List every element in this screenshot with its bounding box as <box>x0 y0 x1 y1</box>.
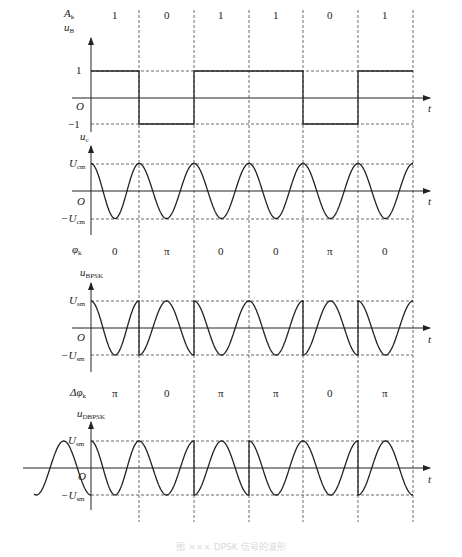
symbol-value: 1 <box>273 10 279 21</box>
data-bits-label: Ak <box>64 8 74 21</box>
bpsk-level-pos: Usm <box>69 295 85 308</box>
symbol-value: 0 <box>164 388 170 399</box>
carrier-level-neg: −Ucm <box>61 213 85 226</box>
symbol-value: π <box>382 388 388 399</box>
dbpsk-level-pos: Usm <box>68 435 84 448</box>
bpsk-t-label: t <box>428 334 431 345</box>
bpsk-ylabel: uBPSK <box>80 267 103 280</box>
symbol-value: π <box>112 388 118 399</box>
symbol-value: 0 <box>273 246 279 257</box>
symbol-value: 0 <box>327 10 333 21</box>
symbol-value: 1 <box>218 10 224 21</box>
carrier-ylabel: uc <box>80 131 89 144</box>
carrier-origin: O <box>77 196 85 207</box>
carrier-level-pos: Ucm <box>69 158 86 171</box>
waveform-diagram <box>0 0 462 557</box>
symbol-value: π <box>273 388 279 399</box>
symbol-value: π <box>218 388 224 399</box>
bpsk-origin: O <box>77 332 85 343</box>
baseband-level-plus1: 1 <box>76 65 82 76</box>
baseband-t-label: t <box>428 103 431 114</box>
symbol-value: 1 <box>382 10 388 21</box>
dbpsk-level-neg: −Usm <box>61 490 85 503</box>
baseband-ylabel: uB <box>64 22 74 35</box>
symbol-value: 0 <box>112 246 118 257</box>
phase-label: φk <box>72 244 82 257</box>
bpsk-level-neg: −Usm <box>61 350 85 363</box>
symbol-value: π <box>327 246 333 257</box>
symbol-value: 0 <box>327 388 333 399</box>
carrier-t-label: t <box>428 196 431 207</box>
symbol-boundary-lines <box>139 10 413 522</box>
symbol-value: 0 <box>382 246 388 257</box>
dbpsk-ylabel: uDBPSK <box>77 408 105 421</box>
symbol-value: 0 <box>164 10 170 21</box>
delta-phase-label: Δφk <box>70 387 86 400</box>
symbol-value: 1 <box>112 10 118 21</box>
symbol-value: 0 <box>218 246 224 257</box>
baseband-level-minus1: −1 <box>68 119 80 130</box>
symbol-value: π <box>164 246 170 257</box>
baseband-origin: O <box>76 101 84 112</box>
figure-caption: 图 ××× DPSK 信号的波形 <box>0 540 462 553</box>
dbpsk-origin: O <box>78 471 86 482</box>
dbpsk-t-label: t <box>428 474 431 485</box>
